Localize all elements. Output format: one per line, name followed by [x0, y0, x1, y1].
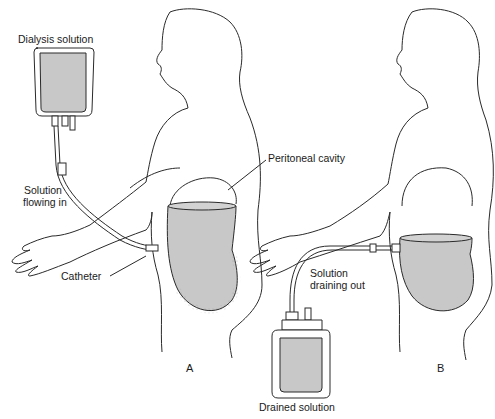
tubing-a [54, 126, 158, 251]
peritoneal-cavity-b [400, 168, 474, 311]
label-catheter: Catheter [61, 270, 101, 282]
diagram-artwork [0, 0, 495, 419]
label-peritoneal-cavity: Peritoneal cavity [268, 152, 345, 164]
panel-label-b: B [437, 362, 444, 374]
label-drained-solution: Drained solution [259, 401, 335, 413]
label-solution-flowing-in-1: Solution [24, 184, 62, 196]
catheter-leader [110, 256, 146, 276]
panel-label-a: A [186, 362, 193, 374]
dialysis-solution-bag [34, 48, 94, 130]
peritoneal-dialysis-diagram: Dialysis solution Solution flowing in Pe… [0, 0, 495, 419]
label-dialysis-solution: Dialysis solution [18, 33, 93, 45]
peritoneal-cavity-a [167, 178, 237, 311]
drained-solution-bag [272, 308, 330, 398]
label-solution-flowing-in-2: flowing in [23, 196, 67, 208]
label-solution-draining-out-2: draining out [310, 279, 365, 291]
label-solution-draining-out-1: Solution [310, 267, 348, 279]
